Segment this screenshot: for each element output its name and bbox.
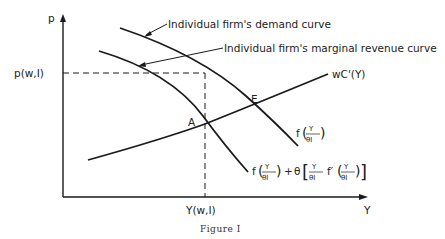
svg-text:Y: Y [264, 163, 270, 171]
x-axis-arrow-icon [359, 194, 368, 200]
svg-text:θI: θI [341, 174, 347, 182]
svg-text:Y: Y [308, 125, 314, 133]
cost-curve-label: wC'(Y) [332, 68, 365, 80]
svg-text:θI: θI [306, 136, 312, 144]
point-e-label: E [251, 93, 258, 105]
svg-text:[: [ [302, 161, 309, 182]
svg-text:+: + [284, 165, 293, 177]
price-tick-label: p(w,I) [14, 67, 44, 79]
svg-text:Y: Y [343, 163, 349, 171]
svg-text:f: f [252, 165, 256, 177]
y-axis-label: p [48, 12, 55, 24]
demand-leader-arrow-icon [144, 31, 152, 37]
svg-text:): ) [276, 163, 281, 179]
svg-text:Y: Y [311, 163, 317, 171]
svg-text:θI: θI [309, 174, 315, 182]
x-axis-label: Y [363, 204, 371, 216]
svg-text:]: ] [360, 161, 367, 182]
figure-caption: Figure I [200, 224, 241, 234]
quantity-tick-label: Y(w,I) [185, 204, 216, 216]
svg-text:θ: θ [294, 165, 300, 177]
marginal-cost-curve [88, 74, 328, 160]
svg-text:): ) [320, 125, 325, 141]
svg-text:f: f [296, 127, 300, 139]
y-axis-arrow-icon [60, 14, 66, 22]
demand-curve-label: Individual firm's demand curve [168, 18, 331, 30]
marginal-revenue-curve [99, 51, 248, 172]
mr-curve-label: Individual firm's marginal revenue curve [224, 42, 437, 54]
mr-leader-line [141, 48, 223, 65]
figure: p Y p(w,I) Y(w,I) Individual firm's dema… [0, 0, 445, 239]
svg-text:f′: f′ [327, 165, 334, 177]
point-a-label: A [188, 116, 196, 128]
marginal-revenue-formula: f ( Y θI ) + θ [ Y θI f′ ( Y θI ) ] [252, 161, 367, 182]
demand-formula: f ( Y θI ) [296, 125, 325, 144]
svg-text:θI: θI [262, 174, 268, 182]
